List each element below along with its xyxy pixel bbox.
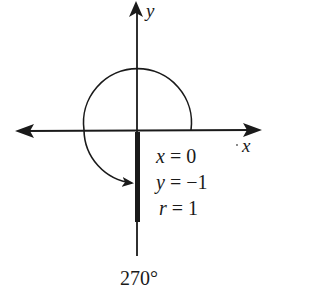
y-axis-up-arrow-icon [129,1,143,17]
angle-label: 270° [120,267,158,289]
unit-circle-diagram: y x x = 0 y = −1 r = 1 270° [0,0,331,291]
x-label-dot [236,144,238,146]
value-y: y = −1 [154,171,207,194]
x-axis-label: x [241,135,251,156]
y-axis-label: y [144,0,155,21]
value-r: r = 1 [159,197,198,219]
value-x: x = 0 [155,145,196,167]
